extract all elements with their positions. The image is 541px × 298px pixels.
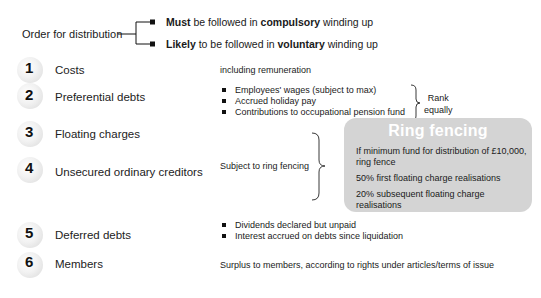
fork-connector [118,14,158,50]
branch-bold-voluntary: voluntary [278,38,325,50]
subject-to-ring-fencing-note: Subject to ring fencing [220,161,309,171]
list-item-text: Accrued holiday pay [235,96,316,106]
list-item-text: Interest accrued on debts since liquidat… [235,231,403,241]
list-item-text: Contributions to occupational pension fu… [235,107,405,117]
list-item: Interest accrued on debts since liquidat… [222,231,403,242]
diagram-title: Order for distribution [22,28,122,40]
step-number: 4 [25,159,33,176]
step-number: 1 [25,59,33,76]
ring-fencing-box: Ring fencing If minimum fund for distrib… [344,118,532,212]
ring-line: If minimum fund for distribution of £10,… [356,146,532,157]
note-line: equally [424,104,453,116]
branch-bold-likely: Likely [166,38,196,50]
branch-text: winding up [325,38,378,50]
step-note-costs: including remuneration [220,65,311,75]
ring-line: 20% subsequent floating charge realisati… [356,189,532,211]
step-label-preferential-debts: Preferential debts [55,91,145,103]
rank-equally-note: Rank equally [424,92,453,116]
branch-bold-compulsory: compulsory [261,16,321,28]
branch-text: to be followed in [196,38,278,50]
bullet-icon [222,110,226,114]
list-item-text: Employees' wages (subject to max) [235,85,376,95]
branch-compulsory: Must be followed in compulsory winding u… [166,16,373,28]
branch-text: be followed in [191,16,261,28]
bullet-icon [222,223,226,227]
bullet-icon [222,99,226,103]
step-number: 3 [25,123,33,140]
deferred-debts-list: Dividends declared but unpaid Interest a… [222,220,403,242]
bullet-icon [222,234,226,238]
list-item: Dividends declared but unpaid [222,220,403,231]
step-label-floating-charges: Floating charges [55,128,140,140]
step-label-unsecured-creditors: Unsecured ordinary creditors [55,166,203,178]
curly-brace-icon [410,84,422,122]
branch-text: winding up [320,16,373,28]
preferential-debts-list: Employees' wages (subject to max) Accrue… [222,85,405,118]
step-label-members: Members [55,258,103,270]
ring-line: 50% first floating charge realisations [356,173,532,184]
step-label-deferred-debts: Deferred debts [55,229,131,241]
ring-line: ring fence [356,157,532,168]
note-line: Rank [424,92,453,104]
branch-bold-must: Must [166,16,191,28]
step-number: 2 [25,86,33,103]
curly-brace-icon [311,132,327,202]
step-number: 5 [25,224,33,241]
step-note-members: Surplus to members, according to rights … [220,260,494,270]
list-item: Employees' wages (subject to max) [222,85,405,96]
list-item-text: Dividends declared but unpaid [235,220,356,230]
list-item: Accrued holiday pay [222,96,405,107]
ring-fencing-details: If minimum fund for distribution of £10,… [356,146,532,216]
list-item: Contributions to occupational pension fu… [222,107,405,118]
step-number: 6 [25,253,33,270]
branch-voluntary: Likely to be followed in voluntary windi… [166,38,378,50]
ring-fencing-title: Ring fencing [344,122,532,140]
bullet-icon [222,88,226,92]
step-label-costs: Costs [55,64,84,76]
